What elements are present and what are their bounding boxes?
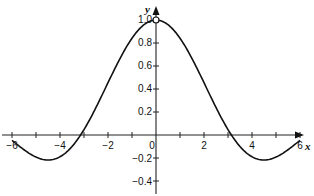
x-axis-label: x bbox=[304, 140, 311, 152]
x-tick-label: 4 bbox=[249, 140, 255, 151]
y-axis-arrow-icon bbox=[153, 6, 160, 15]
y-tick-label: 0.8 bbox=[138, 37, 152, 48]
x-tick-label: −2 bbox=[102, 140, 114, 151]
y-tick-label: 0.6 bbox=[138, 60, 152, 71]
x-tick-label: −4 bbox=[54, 140, 66, 151]
y-axis-label: y bbox=[143, 3, 150, 15]
open-circle-marker bbox=[153, 17, 159, 23]
x-tick-label: 0 bbox=[149, 140, 155, 151]
y-tick-label: 0.2 bbox=[138, 106, 152, 117]
chart-container: −6 −4 −2 0 2 4 6 1.0 0.8 0.6 0.4 0.2 −0.… bbox=[0, 0, 314, 196]
sinc-plot: −6 −4 −2 0 2 4 6 1.0 0.8 0.6 0.4 0.2 −0.… bbox=[0, 0, 314, 196]
x-tick-label: −6 bbox=[6, 140, 18, 151]
x-tick-label: 2 bbox=[201, 140, 207, 151]
y-tick-label: −0.4 bbox=[132, 176, 152, 187]
y-tick-label: 0.4 bbox=[138, 83, 152, 94]
y-tick-label: −0.2 bbox=[132, 153, 152, 164]
